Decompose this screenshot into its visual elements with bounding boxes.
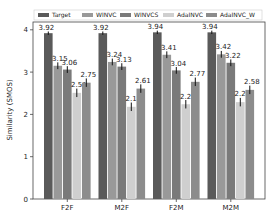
value-label: 3.94 <box>202 23 218 31</box>
bar-winvc <box>54 66 63 199</box>
legend-swatch <box>163 13 174 17</box>
bar-winvc <box>217 54 226 199</box>
bar-adainvc-w <box>246 90 255 199</box>
legend-label: AdaINVC_W <box>220 11 255 19</box>
y-tick-label: 2 <box>24 111 28 119</box>
x-tick-label: M2M <box>223 204 240 212</box>
value-label: 2.58 <box>244 78 260 86</box>
y-axis: 01234 <box>24 26 33 203</box>
value-label: 2.77 <box>190 70 206 78</box>
value-label: 2.75 <box>81 71 97 79</box>
value-label: 3.06 <box>62 59 78 67</box>
x-tick-label: F2M <box>169 204 184 212</box>
legend-label: WINVC <box>96 11 116 18</box>
value-label: 3.04 <box>171 60 187 68</box>
legend-label: AdaINVC <box>177 11 203 18</box>
bar-winvcs <box>227 63 236 199</box>
bars: 3.923.153.062.512.753.923.243.132.182.61… <box>39 23 260 199</box>
bar-group-f2f: 3.923.153.062.512.75 <box>39 24 97 199</box>
value-label: 3.13 <box>116 56 132 64</box>
bar-winvcs <box>118 67 127 199</box>
value-label: 3.94 <box>148 23 164 31</box>
legend-label: Target <box>51 11 71 19</box>
value-label: 3.22 <box>225 52 241 60</box>
bar-adainvc <box>127 107 136 199</box>
value-label: 3.92 <box>93 24 109 32</box>
bar-adainvc-w <box>191 82 200 199</box>
bar-group-f2m: 3.943.413.042.242.77 <box>148 23 206 199</box>
bar-target <box>208 32 217 199</box>
legend: TargetWINVCWINVCSAdaINVCAdaINVC_W <box>34 10 262 20</box>
legend-swatch <box>206 13 217 17</box>
y-tick-label: 4 <box>24 26 29 34</box>
legend-swatch <box>82 13 93 17</box>
bar-winvc <box>108 62 117 199</box>
legend-swatch <box>38 13 49 17</box>
y-tick-label: 0 <box>24 196 28 204</box>
bar-adainvc <box>73 93 82 199</box>
bar-adainvc-w <box>137 89 146 199</box>
x-tick-label: F2F <box>61 204 74 212</box>
bar-chart: TargetWINVCWINVCSAdaINVCAdaINVC_W 01234 … <box>0 0 280 222</box>
bar-adainvc-w <box>82 83 91 199</box>
y-axis-label: Similarity (SMOS) <box>6 79 14 140</box>
bar-group-m2f: 3.923.243.132.182.61 <box>93 24 151 199</box>
value-label: 3.41 <box>161 44 177 52</box>
bar-group-m2m: 3.943.423.222.292.58 <box>202 23 260 199</box>
x-tick-label: M2F <box>115 204 130 212</box>
bar-adainvc <box>182 104 191 199</box>
legend-label: WINVCS <box>134 11 158 18</box>
value-label: 3.92 <box>39 24 55 32</box>
legend-swatch <box>120 13 131 17</box>
bar-target <box>153 32 162 199</box>
y-tick-label: 1 <box>24 153 28 161</box>
bar-winvcs <box>172 70 181 199</box>
value-label: 3.42 <box>216 43 232 51</box>
x-axis: F2FM2FF2MM2M <box>61 199 239 212</box>
y-tick-label: 3 <box>24 69 28 77</box>
value-label: 2.61 <box>135 77 151 85</box>
bar-winvc <box>163 55 172 199</box>
bar-adainvc <box>236 102 245 199</box>
